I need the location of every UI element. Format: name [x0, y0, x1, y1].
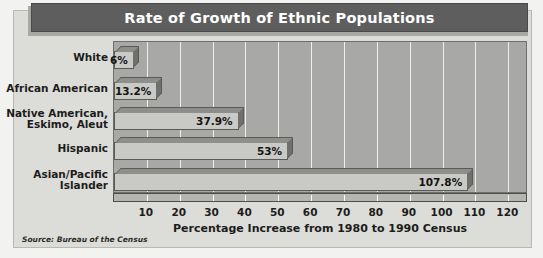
category-label-column: WhiteAfrican AmericanNative American, Es…	[4, 0, 108, 258]
x-axis-tick-label: 100	[431, 206, 453, 218]
category-label: Hispanic	[4, 143, 108, 155]
x-axis-tick	[180, 195, 181, 201]
bar-value-label: 53%	[257, 145, 282, 157]
bar: 6%	[114, 51, 134, 69]
x-axis-tick-label: 80	[369, 206, 384, 218]
x-axis-tick-label: 120	[496, 206, 518, 218]
bar-top-face	[115, 107, 244, 113]
category-label: Asian/Pacific Islander	[4, 169, 108, 192]
chart-figure: Rate of Growth of Ethnic Populations Whi…	[0, 0, 543, 258]
source-note: Source: Bureau of the Census	[22, 235, 147, 244]
category-label: White	[4, 52, 108, 64]
x-axis-tick-label: 20	[171, 206, 186, 218]
gridline	[475, 42, 476, 192]
bar-value-label: 13.2%	[115, 85, 151, 97]
x-axis-tick	[344, 195, 345, 201]
x-axis-tick-label: 40	[237, 206, 252, 218]
bar: 107.8%	[114, 173, 468, 191]
x-axis-tick-label: 10	[139, 206, 154, 218]
bar: 53%	[114, 142, 288, 160]
x-axis	[113, 193, 527, 202]
bar-value-label: 107.8%	[418, 176, 462, 188]
bar-value-label: 6%	[110, 54, 128, 66]
category-label: African American	[4, 83, 108, 95]
x-axis-tick	[245, 195, 246, 201]
x-axis-tick-label: 30	[204, 206, 219, 218]
plot-area: 6%13.2%37.9%53%107.8%	[113, 41, 527, 193]
x-axis-tick	[377, 195, 378, 201]
x-axis-tick	[410, 195, 411, 201]
category-label: Native American, Eskimo, Aleut	[4, 108, 108, 131]
bar-side-face	[467, 168, 473, 190]
x-axis-title: Percentage Increase from 1980 to 1990 Ce…	[113, 222, 527, 235]
x-axis-tick-label: 70	[336, 206, 351, 218]
bar: 37.9%	[114, 112, 239, 130]
bar: 13.2%	[114, 82, 157, 100]
x-axis-tick-label: 60	[303, 206, 318, 218]
chart-title: Rate of Growth of Ethnic Populations	[124, 10, 434, 26]
x-axis-tick-label: 90	[401, 206, 416, 218]
x-axis-tick-label: 50	[270, 206, 285, 218]
bar-side-face	[156, 77, 162, 99]
bar-top-face	[115, 137, 293, 143]
x-axis-tick	[508, 195, 509, 201]
bar-top-face	[115, 168, 473, 174]
x-axis-tick	[147, 195, 148, 201]
x-axis-tick	[443, 195, 444, 201]
x-axis-tick	[278, 195, 279, 201]
x-axis-tick	[213, 195, 214, 201]
x-axis-tick	[311, 195, 312, 201]
gridline	[508, 42, 509, 192]
bar-side-face	[287, 137, 293, 159]
bar-value-label: 37.9%	[196, 115, 232, 127]
x-axis-tick-label: 110	[463, 206, 485, 218]
x-axis-tick	[475, 195, 476, 201]
